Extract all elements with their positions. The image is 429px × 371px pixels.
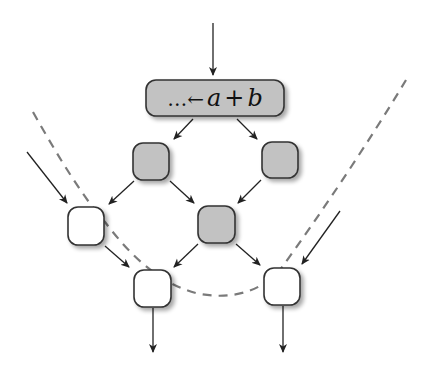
edge-w1-to-w2 bbox=[105, 246, 129, 267]
operand-a: a bbox=[207, 84, 221, 112]
edge-g1-to-w1 bbox=[109, 181, 134, 204]
white-node-w3 bbox=[264, 268, 300, 305]
white-node-w1 bbox=[68, 207, 104, 245]
diagram-canvas: …←a+b bbox=[0, 0, 429, 371]
edge-external-right-to-w3 bbox=[302, 211, 340, 264]
shaded-node-g1 bbox=[133, 143, 169, 180]
edge-top-to-g2 bbox=[237, 119, 257, 139]
edge-g2-to-g3 bbox=[238, 180, 261, 203]
ellipsis: … bbox=[167, 87, 187, 111]
top-node-label: …←a+b bbox=[167, 84, 263, 112]
shaded-node-g3 bbox=[198, 206, 235, 243]
assign-arrow: ← bbox=[187, 87, 204, 111]
plus-operator: + bbox=[224, 84, 244, 112]
edge-g3-to-w2 bbox=[174, 244, 198, 267]
operand-b: b bbox=[247, 84, 262, 112]
shaded-node-g2 bbox=[262, 142, 298, 178]
edge-g3-to-w3 bbox=[236, 244, 260, 265]
white-node-w2 bbox=[134, 270, 171, 307]
edge-g1-to-g3 bbox=[170, 181, 194, 203]
edge-top-to-g1 bbox=[174, 119, 193, 139]
